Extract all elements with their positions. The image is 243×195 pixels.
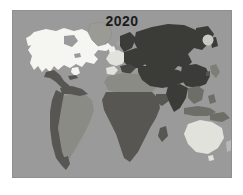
map-panel: 2020 xyxy=(12,10,232,178)
world-choropleth-map xyxy=(12,10,232,178)
pacific-circle-marker xyxy=(203,35,214,46)
figure-root: 2020 xyxy=(0,0,243,195)
region-tasmania xyxy=(208,155,214,161)
